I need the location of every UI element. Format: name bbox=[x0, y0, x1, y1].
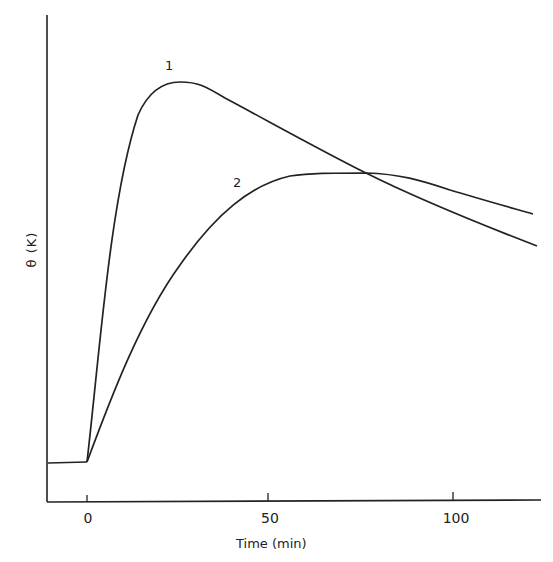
x-tick-label-50: 50 bbox=[261, 510, 279, 526]
y-axis-label: θ (K) bbox=[24, 232, 39, 268]
x-tick-label-100: 100 bbox=[443, 510, 470, 526]
curve-2-label: 2 bbox=[233, 175, 241, 190]
x-tick-label-0: 0 bbox=[84, 510, 93, 526]
curve-1 bbox=[87, 82, 537, 462]
line-chart bbox=[0, 0, 553, 562]
baseline-segment bbox=[48, 462, 87, 463]
curve-1-label: 1 bbox=[165, 58, 173, 73]
x-axis-label: Time (min) bbox=[236, 536, 307, 551]
curve-2 bbox=[87, 173, 533, 462]
x-axis bbox=[47, 500, 541, 502]
